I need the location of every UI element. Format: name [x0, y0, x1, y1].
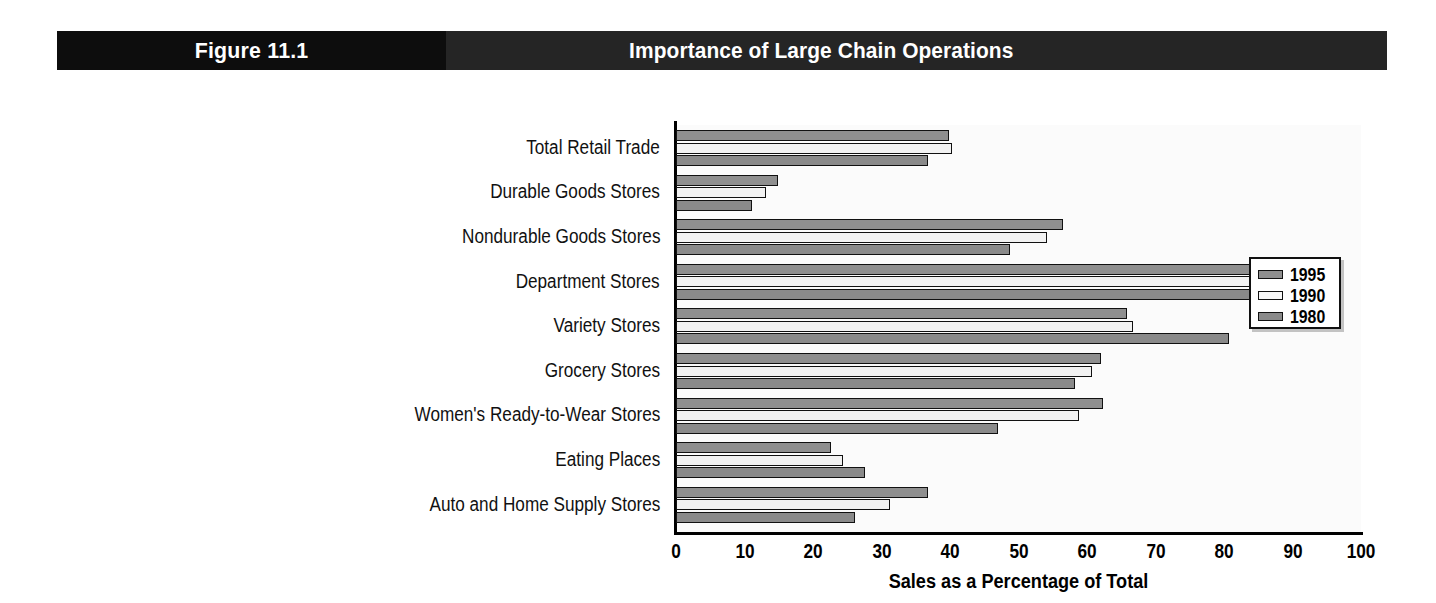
category-label: Variety Stores: [553, 314, 660, 337]
bar-1990: [676, 410, 1079, 421]
bar-1990: [676, 499, 890, 510]
bar-1995: [676, 398, 1103, 409]
bar-1980: [676, 289, 1297, 300]
category-label: Women's Ready-to-Wear Stores: [414, 403, 660, 426]
category-label: Total Retail Trade: [526, 136, 660, 159]
bar-1980: [676, 467, 865, 478]
x-tick-label: 50: [1009, 539, 1028, 563]
bar-1990: [676, 366, 1092, 377]
category-label: Auto and Home Supply Stores: [429, 493, 660, 516]
legend-item-1995: 1995: [1258, 264, 1333, 285]
category-label: Durable Goods Stores: [490, 180, 660, 203]
category-label: Eating Places: [555, 448, 660, 471]
x-tick-label: 10: [735, 539, 754, 563]
bar-1995: [676, 308, 1127, 319]
bar-1980: [676, 378, 1075, 389]
legend-swatch-1990: [1258, 291, 1283, 300]
bar-1995: [676, 353, 1101, 364]
x-axis-title: Sales as a Percentage of Total: [700, 570, 1337, 593]
x-tick-label: 0: [671, 539, 681, 563]
legend-swatch-1995: [1258, 270, 1283, 279]
bar-1990: [676, 187, 766, 198]
bar-1995: [676, 487, 928, 498]
bar-1995: [676, 264, 1325, 275]
figure-number-panel: Figure 11.1: [57, 31, 446, 70]
bar-1990: [676, 321, 1133, 332]
legend-label-1990: 1990: [1290, 287, 1325, 305]
bar-1980: [676, 423, 998, 434]
figure-header-banner: Figure 11.1 Importance of Large Chain Op…: [57, 31, 1387, 70]
bar-1995: [676, 442, 831, 453]
legend-label-1995: 1995: [1290, 266, 1325, 284]
figure-title-label: Importance of Large Chain Operations: [629, 38, 1013, 64]
bar-1980: [676, 244, 1010, 255]
chart-legend: 1995 1990 1980: [1249, 257, 1341, 329]
x-tick-label: 60: [1077, 539, 1096, 563]
bar-1980: [676, 200, 752, 211]
figure-title-panel: Importance of Large Chain Operations: [446, 31, 1387, 70]
bar-1980: [676, 512, 855, 523]
category-label: Department Stores: [516, 270, 660, 293]
bar-1980: [676, 333, 1229, 344]
figure-number-label: Figure 11.1: [195, 38, 309, 64]
x-tick-label: 100: [1347, 539, 1376, 563]
x-axis-line: [674, 532, 1363, 535]
category-label: Grocery Stores: [545, 359, 660, 382]
x-tick-label: 30: [872, 539, 891, 563]
x-tick-label: 90: [1283, 539, 1302, 563]
bar-1990: [676, 276, 1312, 287]
legend-label-1980: 1980: [1290, 308, 1325, 326]
bar-1990: [676, 143, 952, 154]
bar-chart: Total Retail TradeDurable Goods StoresNo…: [0, 118, 1436, 603]
x-tick-label: 70: [1146, 539, 1165, 563]
legend-swatch-1980: [1258, 312, 1283, 321]
x-tick-label: 80: [1214, 539, 1233, 563]
bar-1980: [676, 155, 928, 166]
x-tick-label: 20: [803, 539, 822, 563]
legend-item-1980: 1980: [1258, 306, 1333, 327]
x-tick-label: 40: [940, 539, 959, 563]
category-label: Nondurable Goods Stores: [462, 225, 660, 248]
bar-1995: [676, 219, 1063, 230]
bar-1995: [676, 130, 949, 141]
bar-1990: [676, 455, 843, 466]
legend-item-1990: 1990: [1258, 285, 1333, 306]
bar-1990: [676, 232, 1047, 243]
bar-1995: [676, 175, 778, 186]
